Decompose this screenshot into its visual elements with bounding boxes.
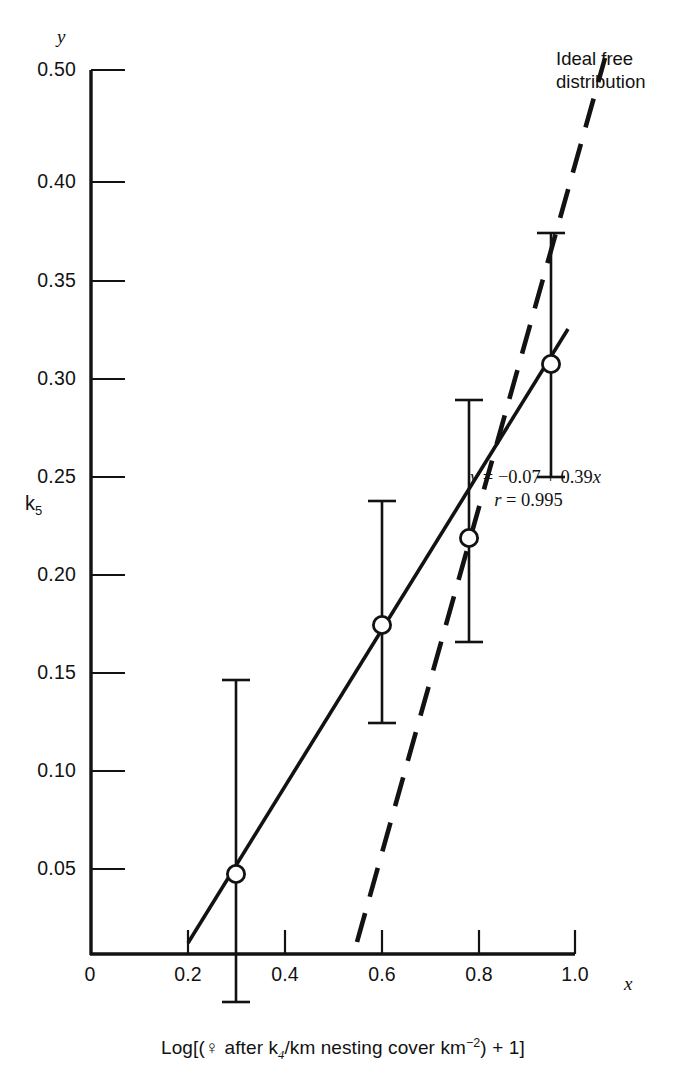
y-axis-title-text: k [25,492,35,514]
y-tick-label: 0.40 [14,170,76,193]
y-tick-marks [91,70,125,869]
caption-superscript: −2 [466,1036,480,1050]
regression-equation-annotation: y = −0.07 + 0.39x r = 0.995 [470,466,601,512]
caption-suffix: ) + 1] [480,1037,524,1058]
correlation-line: r = 0.995 [470,489,601,512]
equation-x-symbol: x [593,467,601,487]
y-tick-label: 0.15 [14,661,76,684]
ideal-free-distribution-label: Ideal free distribution [556,47,692,93]
data-point-marker [460,529,477,546]
x-tick-label: 0.2 [158,963,218,986]
data-point-marker [227,865,244,882]
x-axis-variable-label: x [624,973,632,995]
y-tick-label: 0.50 [14,58,76,81]
x-tick-label: 0.6 [352,963,412,986]
y-tick-label: 0.30 [14,367,76,390]
error-bar [455,400,483,643]
chart-canvas [0,0,692,1072]
caption-middle: /km nesting cover km [284,1037,466,1058]
x-axis-caption: Log[(♀ after k4/km nesting cover km−2) +… [161,1036,525,1063]
x-tick-label: 1.0 [545,963,605,986]
x-tick-label: 0.4 [255,963,315,986]
y-axis-title: k5 [25,492,42,518]
equation-body: = −0.07 + 0.39 [478,467,593,487]
y-axis-variable-label: y [57,26,65,48]
regression-line [188,329,568,943]
y-tick-label: 0.20 [14,563,76,586]
caption-prefix: Log[(♀ after k [161,1037,278,1058]
ideal-free-distribution-label-line2: distribution [556,71,645,92]
x-tick-label: 0 [60,963,120,986]
y-axis-title-subscript: 5 [35,503,42,518]
correlation-value: = 0.995 [501,490,562,510]
data-point-marker [373,616,390,633]
figure-container: y 0.50 0.40 0.35 0.30 0.25 0.20 0.15 0.1… [0,0,692,1072]
data-point-marker [542,355,559,372]
ideal-free-distribution-label-line1: Ideal free [556,48,633,69]
y-tick-label: 0.25 [14,465,76,488]
y-tick-label: 0.10 [14,759,76,782]
y-tick-label: 0.05 [14,857,76,880]
equation-y-symbol: y [470,467,478,487]
x-tick-marks [188,930,575,954]
y-tick-label: 0.35 [14,269,76,292]
x-tick-label: 0.8 [449,963,509,986]
